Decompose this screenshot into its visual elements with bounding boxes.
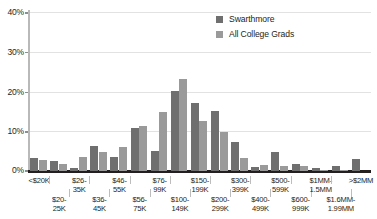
bar[interactable]	[110, 157, 118, 171]
bar[interactable]	[280, 166, 288, 171]
y-tick-label-40: 40%	[0, 8, 24, 17]
x-tick-label: $46- 55K	[98, 177, 142, 194]
bar[interactable]	[191, 103, 199, 171]
legend-label-all-college-grads: All College Grads	[229, 30, 294, 39]
bar[interactable]	[260, 165, 268, 171]
legend-swatch-icon-swarthmore	[216, 16, 223, 23]
x-tick-label: $600- 999K	[279, 196, 323, 213]
bar[interactable]	[271, 152, 279, 171]
legend-swatch-icon-all-college-grads	[216, 31, 223, 38]
bar-group	[49, 0, 69, 171]
category-separator	[49, 176, 50, 184]
category-separator	[89, 176, 90, 184]
x-tick-label: $76- 99K	[138, 177, 182, 194]
category-separator	[130, 176, 131, 184]
x-tick-label: $500- 599K	[258, 177, 302, 194]
bar[interactable]	[139, 126, 147, 171]
y-tick-dash-20	[25, 92, 28, 94]
bar[interactable]	[90, 146, 98, 171]
x-tick-label: $36- 45K	[77, 196, 121, 213]
bar-group	[130, 0, 150, 171]
x-tick-label: $100- 149K	[158, 196, 202, 213]
bar-group	[170, 0, 190, 171]
x-tick-label: $1.6MM- 1.99MM	[319, 196, 363, 213]
category-separator	[331, 176, 332, 184]
bar[interactable]	[50, 161, 58, 171]
category-separator	[291, 176, 292, 184]
bar[interactable]	[151, 151, 159, 171]
x-tick-label: $200- 299K	[198, 196, 242, 213]
x-tick-label: $56- 75K	[118, 196, 162, 213]
bar[interactable]	[99, 152, 107, 171]
bar-group	[89, 0, 109, 171]
y-tick-label-10: 10%	[0, 127, 24, 136]
bar[interactable]	[30, 158, 38, 171]
bar[interactable]	[179, 79, 187, 171]
x-tick-label: <$20K	[17, 177, 61, 186]
x-tick-label: >$2MM	[339, 177, 377, 186]
x-tick-label: $26- 35K	[57, 177, 101, 194]
legend-item-swarthmore[interactable]: Swarthmore	[216, 13, 294, 26]
x-tick-label: $150- 199K	[178, 177, 222, 194]
legend-item-all-college-grads[interactable]: All College Grads	[216, 28, 294, 41]
bar[interactable]	[251, 167, 259, 171]
bar[interactable]	[131, 128, 139, 171]
bar[interactable]	[171, 91, 179, 171]
x-tick-label: $1MM- 1.5MM	[299, 177, 343, 194]
bar[interactable]	[320, 170, 328, 171]
income-distribution-bar-chart: 40% 30% 20% 10% 0% <$20K$20- 25K$26- 35K…	[0, 0, 377, 219]
bar[interactable]	[240, 158, 248, 171]
chart-legend: Swarthmore All College Grads	[216, 13, 294, 43]
bar[interactable]	[159, 112, 167, 171]
bar[interactable]	[340, 170, 348, 171]
bar[interactable]	[231, 142, 239, 171]
y-tick-label-20: 20%	[0, 88, 24, 97]
bar[interactable]	[211, 111, 219, 171]
y-tick-dash-10	[25, 131, 28, 133]
bar-group	[29, 0, 49, 171]
bar-group	[351, 0, 371, 171]
bar[interactable]	[59, 164, 67, 171]
legend-label-swarthmore: Swarthmore	[229, 15, 274, 24]
bar-group	[311, 0, 331, 171]
category-separator	[351, 189, 352, 197]
bar[interactable]	[70, 168, 78, 171]
y-tick-label-0: 0%	[0, 166, 24, 175]
bar[interactable]	[312, 168, 320, 171]
bar[interactable]	[119, 147, 127, 171]
bar[interactable]	[332, 166, 340, 171]
x-tick-label: $300- 399K	[218, 177, 262, 194]
category-separator	[170, 176, 171, 184]
bar[interactable]	[39, 160, 47, 171]
bars-layer	[29, 0, 371, 171]
category-separator	[250, 176, 251, 184]
y-tick-dash-0	[25, 170, 28, 172]
bar[interactable]	[300, 166, 308, 171]
bar[interactable]	[79, 157, 87, 171]
bar-group	[69, 0, 89, 171]
x-tick-label: $400- 499K	[238, 196, 282, 213]
bar-group	[190, 0, 210, 171]
bar-group	[331, 0, 351, 171]
x-tick-label: $20- 25K	[37, 196, 81, 213]
bar[interactable]	[220, 132, 228, 171]
y-tick-dash-30	[25, 52, 28, 54]
bar-group	[109, 0, 129, 171]
bar[interactable]	[199, 121, 207, 171]
category-separator	[210, 176, 211, 184]
bar[interactable]	[352, 159, 360, 171]
y-tick-dash-40	[25, 12, 28, 14]
bar[interactable]	[292, 164, 300, 171]
y-tick-label-30: 30%	[0, 48, 24, 57]
bar-group	[150, 0, 170, 171]
